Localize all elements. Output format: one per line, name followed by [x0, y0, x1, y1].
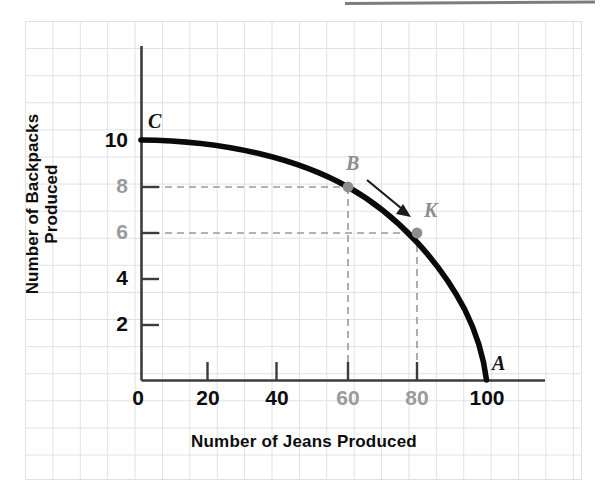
- point-marker-b: [343, 182, 354, 193]
- x-tick-label-80: 80: [387, 386, 447, 410]
- y-axis-title: Number of Backpacks Produced: [23, 109, 61, 299]
- y-tick-label-10: 10: [88, 128, 128, 152]
- x-axis-title: Number of Jeans Produced: [0, 432, 608, 452]
- point-label-a: A: [492, 352, 505, 375]
- movement-arrow-b-to-k: [367, 180, 411, 217]
- y-axis-title-line1: Number of Backpacks: [23, 109, 42, 299]
- ppf-chart-plot: [0, 0, 608, 494]
- guide-lines: [141, 187, 417, 380]
- y-axis-ticks: [141, 187, 159, 325]
- y-tick-label-4: 4: [88, 266, 128, 290]
- x-tick-label-0: 0: [108, 386, 168, 410]
- ppf-curve: [141, 140, 487, 380]
- x-tick-label-60: 60: [318, 386, 378, 410]
- chart-page: 10 8 6 4 2 0 20 40 60 80 100 C B K A Num…: [0, 0, 608, 494]
- y-tick-label-8: 8: [88, 174, 128, 198]
- x-tick-label-100: 100: [457, 386, 517, 410]
- y-tick-label-6: 6: [88, 220, 128, 244]
- point-label-b: B: [346, 152, 359, 175]
- x-tick-label-20: 20: [178, 386, 238, 410]
- y-axis-title-line2: Produced: [42, 109, 61, 299]
- point-label-k: K: [424, 199, 437, 222]
- point-label-c: C: [148, 110, 161, 133]
- x-axis-ticks: [208, 362, 418, 380]
- x-tick-label-40: 40: [247, 386, 307, 410]
- point-marker-k: [412, 228, 423, 239]
- y-tick-label-2: 2: [88, 312, 128, 336]
- axes: [142, 46, 546, 381]
